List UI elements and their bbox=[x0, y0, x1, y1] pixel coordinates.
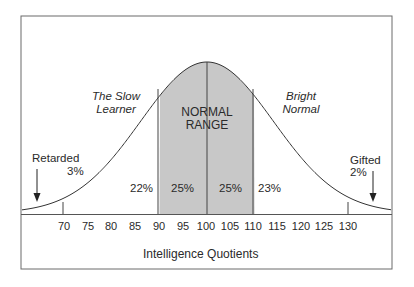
normal-range-label: NORMAL RANGE bbox=[177, 106, 237, 132]
retarded-arrow-icon bbox=[34, 169, 41, 202]
slow-learner-percent: 22% bbox=[130, 182, 153, 195]
normal-high-percent: 25% bbox=[219, 182, 242, 195]
slow-learner-label: The Slow Learner bbox=[86, 90, 146, 116]
tick-label: 80 bbox=[105, 220, 117, 232]
bright-normal-label: Bright Normal bbox=[277, 90, 325, 116]
tick-label: 115 bbox=[268, 220, 286, 232]
retarded-label: Retarded bbox=[32, 152, 79, 165]
tick-label: 100 bbox=[197, 220, 215, 232]
tick-label: 120 bbox=[292, 220, 310, 232]
bright-normal-percent: 23% bbox=[258, 182, 281, 195]
retarded-percent: 3% bbox=[67, 165, 84, 178]
tick-label: 105 bbox=[221, 220, 239, 232]
tick-label: 110 bbox=[244, 220, 262, 232]
tick-label: 95 bbox=[177, 220, 189, 232]
tick-label: 70 bbox=[58, 220, 70, 232]
normal-low-percent: 25% bbox=[171, 182, 194, 195]
tick-label: 75 bbox=[82, 220, 94, 232]
tick-label: 90 bbox=[153, 220, 165, 232]
bell-curve-chart bbox=[0, 0, 414, 287]
tick-label: 125 bbox=[315, 220, 333, 232]
gifted-arrow-icon bbox=[370, 171, 377, 202]
tick-label: 130 bbox=[339, 220, 357, 232]
x-axis-title: Intelligence Quotients bbox=[143, 248, 258, 261]
gifted-percent: 2% bbox=[350, 166, 367, 179]
tick-label: 85 bbox=[129, 220, 141, 232]
